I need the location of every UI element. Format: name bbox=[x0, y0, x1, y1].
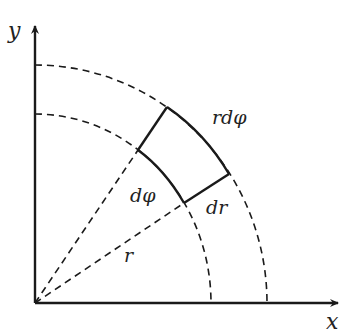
polar-element-diagram: y x rdφ dφ dr r bbox=[0, 0, 357, 335]
radial-line-upper bbox=[35, 150, 138, 303]
radial-width-label: dr bbox=[206, 196, 229, 218]
y-axis-label: y bbox=[7, 18, 21, 43]
radius-label: r bbox=[124, 244, 135, 266]
element-side-upper bbox=[138, 107, 167, 150]
inner-arc-dashed bbox=[35, 114, 211, 303]
radial-line-lower bbox=[35, 203, 184, 303]
x-axis-label: x bbox=[326, 309, 339, 334]
angle-label: dφ bbox=[130, 184, 156, 206]
arc-length-label: rdφ bbox=[212, 106, 247, 128]
